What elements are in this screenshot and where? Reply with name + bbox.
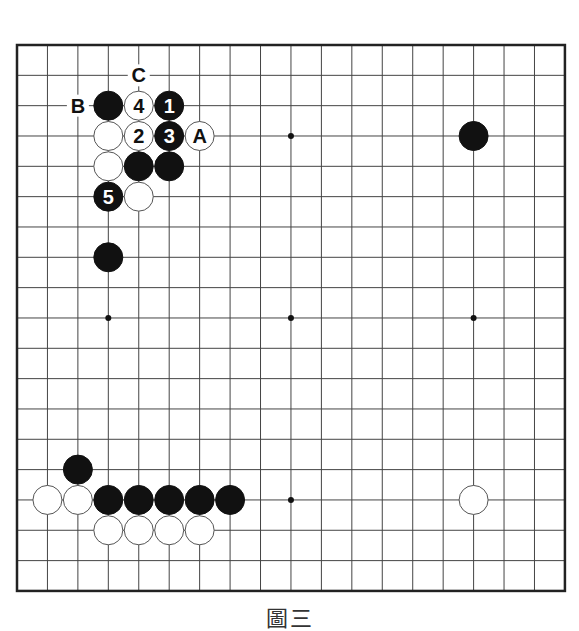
black-stone	[155, 485, 184, 514]
white-stone	[155, 516, 184, 545]
black-stone	[63, 455, 92, 484]
black-stone: 5	[94, 182, 123, 211]
black-stone	[459, 121, 488, 150]
stone-label: 1	[164, 95, 175, 117]
stone-label: A	[192, 125, 206, 147]
go-board: BC 4123A5	[0, 0, 579, 600]
black-stone: 1	[155, 91, 184, 120]
white-stone: 2	[124, 121, 153, 150]
white-stone	[94, 152, 123, 181]
black-stone	[216, 485, 245, 514]
point-label-c: C	[132, 64, 146, 86]
star-point	[288, 497, 294, 503]
star-point	[288, 133, 294, 139]
black-stone	[155, 152, 184, 181]
stone-label: 3	[164, 125, 175, 147]
point-label-b: B	[71, 95, 85, 117]
white-stone: A	[185, 121, 214, 150]
white-stone	[124, 182, 153, 211]
white-stone: 4	[124, 91, 153, 120]
white-stone	[124, 516, 153, 545]
white-stone	[185, 516, 214, 545]
star-point	[471, 315, 477, 321]
white-stone	[63, 485, 92, 514]
black-stone	[185, 485, 214, 514]
black-stone	[94, 485, 123, 514]
stone-label: 4	[133, 95, 145, 117]
white-stone	[94, 121, 123, 150]
black-stone	[94, 243, 123, 272]
white-stone	[33, 485, 62, 514]
figure-caption: 圖三	[0, 600, 579, 631]
black-stone	[124, 485, 153, 514]
white-stone	[459, 485, 488, 514]
black-stone	[124, 152, 153, 181]
black-stone: 3	[155, 121, 184, 150]
stone-label: 2	[133, 125, 144, 147]
star-point	[105, 315, 111, 321]
star-point	[288, 315, 294, 321]
stone-label: 5	[103, 186, 114, 208]
white-stone	[94, 516, 123, 545]
black-stone	[94, 91, 123, 120]
